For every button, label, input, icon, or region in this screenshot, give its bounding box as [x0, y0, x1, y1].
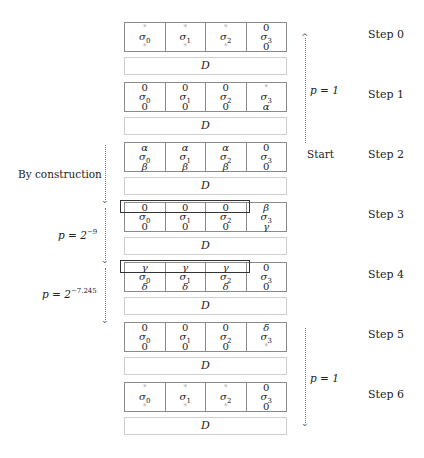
state-column-3: 0σ30 [247, 23, 287, 51]
d-box-step-5: D [124, 357, 287, 375]
d-box-step-2: D [124, 177, 287, 195]
d-box-step-3: D [124, 237, 287, 255]
step-label-6: Step 6 [368, 388, 404, 401]
arrow-down-icon: ⌄ [101, 256, 109, 265]
state-column-3: δσ3* [247, 323, 287, 351]
by-construction-dotted-line [105, 145, 106, 200]
state-block-step-0: *σ0**σ1**σ2*0σ30 [124, 22, 287, 52]
state-column-0: *σ0* [125, 23, 166, 51]
step-label-0: Step 0 [368, 28, 404, 41]
p1-top-label: p = 1 [310, 84, 339, 96]
state-column-3: *σ3α [247, 83, 287, 111]
d-box-step-0: D [124, 57, 287, 75]
step-label-5: Step 5 [368, 328, 404, 341]
state-column-3: 0σ30 [247, 263, 287, 291]
state-column-2: *σ2* [206, 383, 247, 411]
p-step4-label: p = 2−7.245 [42, 287, 97, 300]
p-step3-dotted-line [105, 208, 106, 260]
state-column-2: 0σ20 [206, 323, 247, 351]
step-label-2: Step 2 [368, 148, 404, 161]
state-column-0: 0σ00 [125, 83, 166, 111]
p-step3-label: p = 2−9 [58, 228, 97, 241]
step-label-3: Step 3 [368, 208, 404, 221]
state-column-2: ασ2β [206, 143, 247, 171]
state-block-step-6: *σ0**σ1**σ2*0σ30 [124, 382, 287, 412]
by-construction-label: By construction [18, 168, 102, 180]
state-column-1: 0σ10 [166, 323, 207, 351]
p1-top-dotted-line [305, 38, 306, 143]
state-block-step-1: 0σ000σ100σ20*σ3α [124, 82, 287, 112]
state-column-1: 0σ10 [166, 83, 207, 111]
arrow-down-icon: ⌄ [301, 419, 309, 428]
p-step4-dotted-line [105, 268, 106, 320]
state-column-3: 0σ30 [247, 143, 287, 171]
state-column-2: 0σ20 [206, 83, 247, 111]
d-box-step-1: D [124, 117, 287, 135]
state-column-1: ασ1β [166, 143, 207, 171]
highlight-box-step4 [120, 260, 250, 273]
highlight-box-step3 [120, 200, 250, 213]
state-block-step-5: 0σ000σ100σ20δσ3* [124, 322, 287, 352]
state-column-0: ασ0β [125, 143, 166, 171]
state-column-3: βσ3γ [247, 203, 287, 231]
state-column-1: *σ1* [166, 383, 207, 411]
step-label-4: Step 4 [368, 268, 404, 281]
step-label-1: Step 1 [368, 88, 404, 101]
arrow-down-icon: ⌄ [101, 316, 109, 325]
state-column-1: *σ1* [166, 23, 207, 51]
state-column-3: 0σ30 [247, 383, 287, 411]
start-label: Start [307, 148, 334, 160]
p1-bottom-dotted-line [305, 328, 306, 423]
state-column-0: *σ0* [125, 383, 166, 411]
d-box-step-4: D [124, 297, 287, 315]
p1-bottom-label: p = 1 [310, 372, 339, 384]
state-block-step-2: ασ0βασ1βασ2β0σ30 [124, 142, 287, 172]
d-box-step-6: D [124, 417, 287, 435]
state-column-2: *σ2* [206, 23, 247, 51]
state-column-0: 0σ00 [125, 323, 166, 351]
arrow-down-icon: ⌄ [101, 196, 109, 205]
arrow-up-icon: ^ [301, 33, 309, 42]
